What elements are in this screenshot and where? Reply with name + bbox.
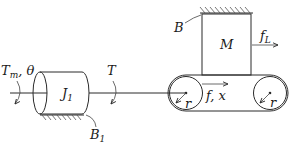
load-force-label: fL [259, 28, 271, 45]
belt-force-label: f, x [205, 88, 227, 103]
inertia-label: J1 [59, 86, 73, 103]
b-ground-hatch [200, 7, 253, 13]
b1-label: B1 [89, 127, 105, 142]
b1-leader-line [86, 115, 96, 127]
pulley-right-radius-label: r [270, 95, 277, 110]
shaft-torque-label: T [107, 63, 117, 78]
b1-ground-hatch [40, 115, 84, 120]
b-label: B [173, 20, 184, 35]
motor-torque-label: Tm, θ [1, 63, 34, 80]
mass-label: M [219, 37, 234, 52]
conveyor-diagram: Tm, θ J1 B1 T r [0, 0, 289, 142]
b-leader-line [185, 15, 201, 23]
pulley-left-radius-label: r [185, 96, 192, 111]
